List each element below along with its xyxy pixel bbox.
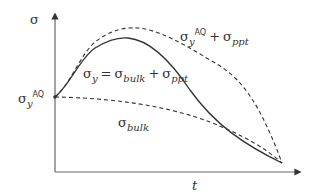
y-axis-label: σ <box>30 11 39 27</box>
x-axis-label: t <box>192 177 197 193</box>
curve-upper-dashed <box>55 28 282 163</box>
curve-yield-solid <box>55 38 282 163</box>
origin-point <box>53 95 57 99</box>
label-upper-curve: σyAQ+σppt <box>180 28 249 44</box>
y-tick-label: σyAQ <box>18 90 44 106</box>
diagram-canvas <box>0 0 316 195</box>
label-yield-curve: σy=σbulk+σppt <box>83 65 188 81</box>
curve-bulk-dashed <box>55 97 282 163</box>
label-bulk-curve: σbulk <box>118 114 149 130</box>
